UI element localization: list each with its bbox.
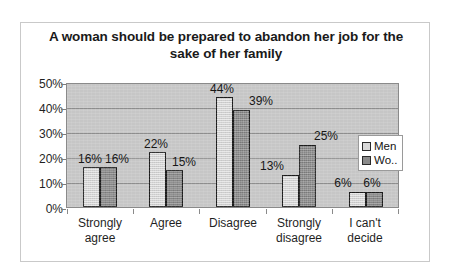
x-axis-label-strongly-disagree: Strongly disagree [276,216,322,246]
x-axis-label-agree: Agree [150,216,182,231]
x-axis-tick-5 [398,209,399,214]
x-axis-tick-3 [266,209,267,214]
bar-men-disagree [216,97,233,207]
data-label-women-strongly-agree: 16% [105,152,129,166]
x-axis-label-disagree: Disagree [209,216,257,231]
bar-women-strongly-disagree [299,145,316,208]
x-axis-tick-1 [133,209,134,214]
data-label-women-disagree: 39% [249,94,273,108]
x-axis-tick-0 [67,209,68,214]
legend-swatch-women-icon [362,156,371,165]
bar-men-cant-decide [349,192,366,207]
legend-label-men: Men [374,140,396,152]
y-axis-label-0: 0% [21,202,63,216]
data-label-men-strongly-agree: 16% [78,152,102,166]
data-label-women-agree: 15% [172,155,196,169]
bar-men-strongly-disagree [282,175,299,208]
bar-men-agree [149,152,166,207]
x-axis-tick-4 [332,209,333,214]
chart-title: A woman should be prepared to abandon he… [43,28,409,62]
y-axis-label-30: 30% [21,127,63,141]
chart-legend[interactable]: Men Wo.. [358,135,403,171]
legend-label-women: Wo.. [374,154,397,166]
bar-women-disagree [233,110,250,208]
y-axis-label-40: 40% [21,102,63,116]
data-label-women-cant-decide: 6% [363,176,380,190]
bar-women-agree [166,170,183,208]
x-axis-label-cant-decide: I can't decide [347,216,382,246]
y-axis-label-20: 20% [21,152,63,166]
legend-swatch-men-icon [362,142,371,151]
bar-women-cant-decide [366,192,383,207]
data-label-men-disagree: 44% [210,82,234,96]
x-axis-label-strongly-agree: Strongly agree [78,216,122,246]
y-axis-label-10: 10% [21,177,63,191]
data-label-men-strongly-disagree: 13% [260,159,284,173]
data-label-women-strongly-disagree: 25% [314,129,338,143]
data-label-men-agree: 22% [144,137,168,151]
x-axis-tick-2 [199,209,200,214]
bar-men-strongly-agree [83,167,100,207]
legend-item-women[interactable]: Wo.. [362,153,397,167]
chart-frame: A woman should be prepared to abandon he… [20,22,430,262]
data-label-men-cant-decide: 6% [334,176,351,190]
legend-item-men[interactable]: Men [362,139,397,153]
bar-women-strongly-agree [100,167,117,207]
y-axis-tick-0 [61,209,66,210]
y-axis-label-50: 50% [21,77,63,91]
